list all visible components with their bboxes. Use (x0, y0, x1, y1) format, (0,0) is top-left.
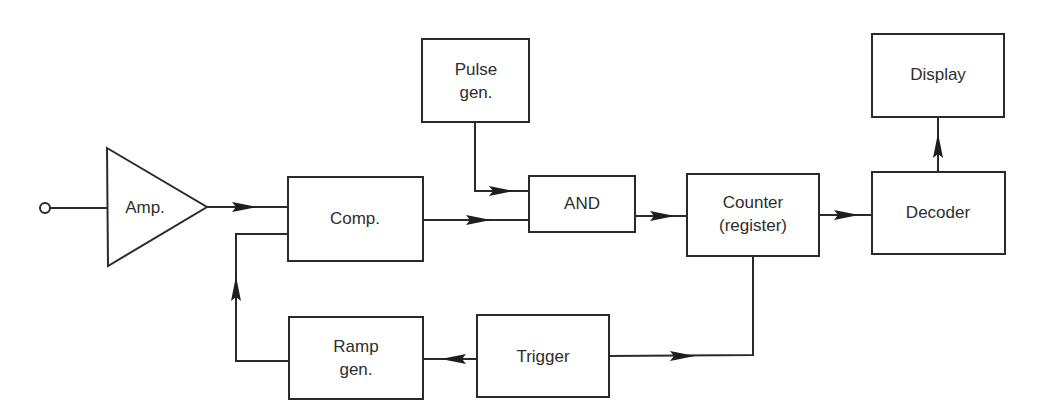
and-label: AND (564, 194, 600, 213)
wire-counter-trigger (609, 256, 753, 356)
block-and: AND (529, 176, 635, 232)
ramp-gen-label-line1: Ramp (333, 337, 378, 356)
pulse-gen-label-line1: Pulse (455, 60, 498, 79)
amp-label: Amp. (125, 198, 165, 217)
block-pulse-gen: Pulse gen. (422, 39, 529, 122)
display-label: Display (910, 65, 966, 84)
block-comp: Comp. (288, 177, 423, 261)
block-decoder: Decoder (872, 172, 1005, 254)
block-ramp-gen: Ramp gen. (289, 317, 423, 399)
trigger-label: Trigger (516, 347, 570, 366)
input-terminal (40, 203, 50, 213)
counter-label-line1: Counter (723, 193, 784, 212)
pulse-gen-box (422, 39, 529, 122)
adc-block-diagram: Amp. Comp. Pulse gen. AND Counter (regis… (0, 0, 1039, 420)
comp-label: Comp. (330, 209, 380, 228)
ramp-gen-label-line2: gen. (339, 360, 372, 379)
wire-ramp-to-comp (236, 234, 289, 361)
block-trigger: Trigger (477, 315, 609, 397)
counter-box (687, 174, 819, 256)
block-amp: Amp. (107, 148, 207, 266)
decoder-label: Decoder (906, 203, 971, 222)
ramp-gen-box (289, 317, 423, 399)
wire-pulse-to-and (475, 122, 529, 191)
counter-label-line2: (register) (719, 216, 787, 235)
block-display: Display (872, 34, 1004, 117)
pulse-gen-label-line2: gen. (459, 83, 492, 102)
block-counter: Counter (register) (687, 174, 819, 256)
